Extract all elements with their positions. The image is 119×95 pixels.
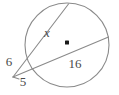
- geometry-canvas: [0, 0, 119, 95]
- external-point-vertex-tick: [13, 77, 19, 79]
- label-external-segment-6: 6: [6, 55, 13, 68]
- upper-secant-line: [13, 4, 69, 77]
- circle-geometry-diagram: x 6 5 16: [0, 0, 119, 95]
- circle-center-dot: [65, 41, 69, 45]
- label-chord-x: x: [44, 26, 50, 39]
- label-chord-16: 16: [69, 57, 82, 70]
- label-external-segment-5: 5: [20, 75, 27, 88]
